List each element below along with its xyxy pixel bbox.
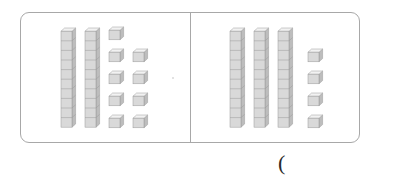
unit-cube <box>307 70 322 84</box>
open-parenthesis: ( <box>278 152 285 174</box>
unit-cube-glyph <box>307 70 324 85</box>
unit-cube <box>307 48 322 62</box>
unit-cube-glyph <box>307 114 324 129</box>
tens-rod <box>60 27 75 129</box>
tens-rod-glyph <box>84 27 101 128</box>
unit-cube <box>108 92 123 106</box>
unit-cube <box>307 92 322 106</box>
unit-cube-glyph <box>132 48 149 63</box>
unit-cube-glyph <box>307 48 324 63</box>
tens-rod <box>253 27 268 129</box>
unit-cube <box>132 48 147 62</box>
unit-cube <box>132 92 147 106</box>
unit-cube-glyph <box>108 48 125 63</box>
unit-cube-glyph <box>307 92 324 107</box>
unit-cube <box>307 114 322 128</box>
unit-cube <box>108 70 123 84</box>
unit-cube-glyph <box>108 70 125 85</box>
tens-rod-glyph <box>229 27 246 128</box>
unit-cube <box>108 48 123 62</box>
unit-cube-glyph <box>108 92 125 107</box>
right-panel <box>191 12 360 143</box>
tens-rod <box>277 27 292 129</box>
unit-cube <box>108 114 123 128</box>
tens-rod <box>229 27 244 129</box>
unit-cube-glyph <box>132 70 149 85</box>
unit-cube <box>132 114 147 128</box>
worksheet-canvas: ( <box>0 0 400 183</box>
tens-rod-glyph <box>253 27 270 128</box>
unit-cube-glyph <box>132 114 149 129</box>
unit-cube-glyph <box>132 92 149 107</box>
tens-rod-glyph <box>60 27 77 128</box>
unit-cube-glyph <box>108 114 125 129</box>
unit-cube <box>108 26 123 40</box>
unit-cube <box>132 70 147 84</box>
tens-rod <box>84 27 99 129</box>
tens-rod-glyph <box>277 27 294 128</box>
unit-cube-glyph <box>108 26 125 41</box>
left-panel <box>20 12 190 143</box>
